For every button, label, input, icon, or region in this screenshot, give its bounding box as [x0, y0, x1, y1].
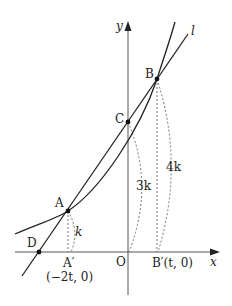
line-l-label: l: [191, 24, 195, 38]
origin-label: O: [116, 255, 126, 269]
arc-k-label: k: [75, 225, 82, 239]
point-A-prime-label: A′: [62, 256, 75, 270]
arc-3k-label: 3k: [136, 179, 152, 193]
point-C: [126, 120, 131, 125]
x-axis-label: x: [210, 255, 217, 269]
y-axis: [125, 21, 132, 295]
point-D-label: D: [27, 236, 37, 250]
y-axis-arrow-icon: [125, 21, 132, 31]
point-C-label: C: [115, 112, 124, 126]
curve: [15, 22, 175, 234]
point-A: [66, 209, 71, 214]
point-B: [155, 77, 160, 82]
point-B-prime-label: B′(t, 0): [152, 256, 193, 270]
coordinate-diagram: y x l B C A D O A′ (−2t, 0) B′(t, 0) k 3…: [0, 0, 232, 306]
arc-k: [68, 211, 75, 252]
point-B-label: B: [145, 67, 154, 81]
point-A-prime-coord: (−2t, 0): [46, 270, 93, 284]
line-l: [22, 34, 188, 276]
arc-4k-label: 4k: [166, 160, 182, 174]
point-A-label: A: [54, 196, 64, 210]
y-axis-label: y: [115, 19, 123, 33]
point-D: [37, 250, 42, 255]
